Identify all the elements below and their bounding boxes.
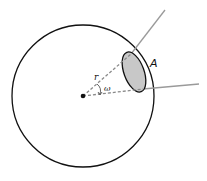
area-label: A — [149, 57, 158, 70]
diagram-canvas: r ω A — [0, 0, 207, 181]
lower-radius-dashed — [83, 89, 143, 96]
angle-label: ω — [104, 84, 111, 93]
lower-ray — [143, 84, 199, 89]
sphere-solid-angle-diagram: r ω A — [0, 0, 207, 181]
upper-ray — [131, 10, 165, 54]
center-point — [81, 94, 86, 99]
radius-label: r — [94, 72, 99, 82]
